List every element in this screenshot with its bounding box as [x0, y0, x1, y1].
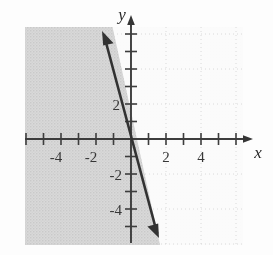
scan-noise: [25, 27, 243, 245]
x-axis-arrowhead: [243, 135, 253, 143]
x-axis-label: x: [253, 143, 262, 162]
coordinate-plane-svg: -4 -2 2 4 2 -2 -4 y x: [0, 0, 273, 255]
y-axis-arrowhead: [127, 15, 135, 25]
y-axis-label: y: [116, 5, 126, 24]
graph-figure: -4 -2 2 4 2 -2 -4 y x: [0, 0, 273, 255]
